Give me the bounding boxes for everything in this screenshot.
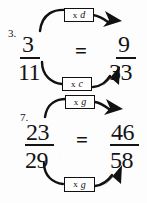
problem-number-1: 3. — [8, 28, 16, 39]
problem-1-right-denominator: 33 — [109, 60, 132, 84]
problem-1-right-numerator: 9 — [118, 32, 130, 56]
problem-2-equals-sign: = — [76, 130, 88, 151]
multiply-symbol: x — [73, 11, 78, 20]
worksheet-page: 3. 3 11 = 9 33 x d x c 7. 23 29 = 46 58 … — [0, 0, 147, 203]
problem-2-left-numerator: 23 — [26, 120, 49, 144]
problem-1-top-arrow-operation-box[interactable]: x d — [64, 8, 94, 22]
problem-1-left-denominator: 11 — [18, 60, 40, 84]
problem-2-bottom-arrow-operation-box[interactable]: x g — [64, 177, 95, 192]
multiply-symbol: x — [71, 80, 76, 89]
problem-2-right-numerator: 46 — [111, 120, 134, 144]
multiply-symbol: x — [73, 180, 78, 189]
multiply-symbol: x — [74, 98, 79, 107]
problem-2-left-fraction-bar — [25, 144, 54, 146]
problem-2-left-denominator: 29 — [25, 148, 48, 172]
problem-1-equals-sign: = — [75, 41, 87, 62]
problem-1-left-numerator: 3 — [22, 32, 34, 56]
multiply-value: c — [79, 79, 83, 89]
multiply-value: d — [80, 10, 85, 20]
problem-2-right-fraction-bar — [110, 144, 139, 146]
problem-2-top-arrow-operation-box[interactable]: x g — [65, 95, 95, 109]
problem-2-right-denominator: 58 — [110, 148, 133, 172]
problem-1-bottom-arrow-operation-box[interactable]: x c — [62, 77, 92, 91]
multiply-value: g — [81, 180, 86, 190]
multiply-value: g — [81, 97, 86, 107]
